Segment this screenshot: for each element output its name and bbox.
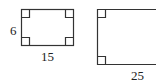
right-angle-mark-bottom-left <box>22 38 30 46</box>
right-angle-mark-top-left <box>98 10 106 18</box>
left-width-label: 15 <box>41 49 54 64</box>
left-rectangle <box>22 10 74 46</box>
right-width-label: 25 <box>131 68 144 82</box>
right-angle-mark-bottom-right <box>66 38 74 46</box>
right-angle-mark-top-left <box>22 10 30 18</box>
left-height-label: 6 <box>10 23 17 38</box>
right-angle-mark-top-right <box>66 10 74 18</box>
right-rectangle <box>98 10 157 65</box>
right-angle-mark-bottom-left <box>98 57 106 65</box>
rectangles-diagram: 6 15 25 <box>0 0 156 82</box>
